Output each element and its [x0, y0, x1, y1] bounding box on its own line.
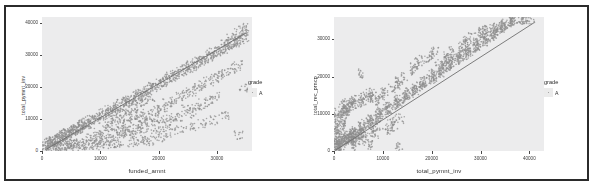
y-axis-label: total_pymnt_inv	[20, 76, 26, 115]
x-tick-mark	[334, 151, 335, 154]
x-axis-label: total_pymnt_inv	[334, 168, 544, 174]
y-tick-mark	[332, 39, 335, 40]
point-marker-icon	[544, 88, 553, 97]
scatter-plot-total-pymnt-inv: total_rec_prncp 0100002000030000 0100002…	[298, 7, 587, 183]
y-tick-label: 0	[10, 148, 38, 153]
x-tick-label: 30000	[467, 156, 495, 161]
y-tick-label: 20000	[302, 74, 330, 79]
x-axis-label: funded_amnt	[42, 168, 252, 174]
legend: grade A	[544, 79, 558, 97]
x-tick-label: 40000	[515, 156, 543, 161]
y-tick-mark	[40, 55, 43, 56]
x-tick-mark	[383, 151, 384, 154]
x-tick-label: 20000	[145, 156, 173, 161]
scatter-points	[334, 17, 544, 151]
plot-panel	[42, 17, 252, 151]
y-tick-mark	[40, 23, 43, 24]
y-axis-label: total_rec_prncp	[312, 76, 318, 115]
x-tick-label: 10000	[86, 156, 114, 161]
legend-item[interactable]: A	[248, 88, 262, 97]
y-tick-label: 0	[302, 148, 330, 153]
x-tick-label: 30000	[203, 156, 231, 161]
legend-item-label: A	[555, 90, 558, 96]
legend-title: grade	[544, 79, 558, 85]
legend-item[interactable]: A	[544, 88, 558, 97]
point-marker-icon	[248, 88, 257, 97]
x-tick-mark	[432, 151, 433, 154]
x-tick-mark	[42, 151, 43, 154]
figure-frame: total_pymnt_inv 010000200003000040000 01…	[4, 5, 589, 181]
x-tick-mark	[159, 151, 160, 154]
plot-panel	[334, 17, 544, 151]
y-tick-label: 20000	[10, 84, 38, 89]
x-tick-label: 0	[320, 156, 348, 161]
legend: grade A	[248, 79, 262, 97]
y-tick-mark	[40, 119, 43, 120]
y-tick-mark	[40, 87, 43, 88]
y-tick-label: 10000	[302, 111, 330, 116]
x-tick-mark	[217, 151, 218, 154]
x-tick-mark	[481, 151, 482, 154]
legend-item-label: A	[259, 90, 262, 96]
x-tick-label: 0	[28, 156, 56, 161]
y-tick-label: 10000	[10, 116, 38, 121]
y-tick-label: 40000	[10, 20, 38, 25]
y-tick-mark	[332, 114, 335, 115]
x-tick-mark	[100, 151, 101, 154]
y-tick-label: 30000	[10, 52, 38, 57]
x-tick-label: 20000	[418, 156, 446, 161]
y-tick-mark	[332, 77, 335, 78]
legend-title: grade	[248, 79, 262, 85]
x-tick-label: 10000	[369, 156, 397, 161]
scatter-plot-funded-amnt: total_pymnt_inv 010000200003000040000 01…	[6, 7, 298, 183]
scatter-points	[42, 17, 252, 151]
y-tick-label: 30000	[302, 36, 330, 41]
x-tick-mark	[529, 151, 530, 154]
